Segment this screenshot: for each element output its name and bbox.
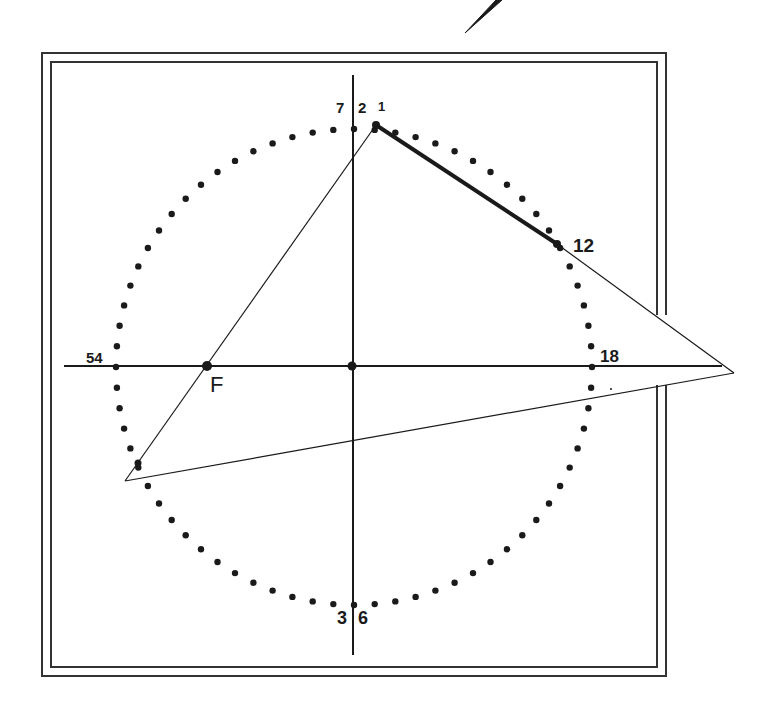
- axes: [64, 75, 722, 655]
- circle-dot-66: [232, 158, 238, 164]
- circle-dot-5: [451, 148, 457, 154]
- thin-segment-0: [125, 125, 376, 481]
- circle-dot-67: [250, 148, 256, 154]
- circle-dot-32: [432, 587, 438, 593]
- circle-dot-45: [183, 532, 189, 538]
- circle-dot-14: [574, 282, 580, 288]
- circle-dot-35: [372, 601, 378, 607]
- circle-dot-71: [330, 127, 336, 133]
- circle-dot-52: [116, 405, 122, 411]
- circle-dot-72: [351, 126, 357, 132]
- label-18: 18: [600, 348, 619, 365]
- circle-dot-53: [114, 385, 120, 391]
- circle-dot-70: [310, 129, 316, 135]
- circle-dot-37: [330, 601, 336, 607]
- circle-dot-59: [135, 263, 141, 269]
- circle-dot-13: [567, 263, 573, 269]
- key-points: [135, 121, 613, 467]
- center-point: [348, 362, 357, 371]
- circle-dot-20: [585, 405, 591, 411]
- circle-dot-18: [589, 364, 595, 370]
- label-focus-f: F: [210, 374, 223, 396]
- circle-dot-4: [432, 140, 438, 146]
- circle-dot-24: [557, 483, 563, 489]
- pencil-stroke-mark: [465, 0, 502, 33]
- label-72-b: 2: [358, 100, 366, 115]
- label-36-a: 3: [337, 609, 347, 627]
- circle-dot-29: [487, 559, 493, 565]
- label-1: 1: [378, 100, 385, 113]
- circle-dot-41: [250, 580, 256, 586]
- circle-dot-17: [588, 343, 594, 349]
- circle-dot-11: [546, 227, 552, 233]
- circle-dot-27: [519, 532, 525, 538]
- circle-dot-55: [114, 343, 120, 349]
- circle-dot-6: [470, 158, 476, 164]
- circle-dot-69: [289, 134, 295, 140]
- stray-dot: [610, 388, 612, 390]
- left-mark-point: [135, 460, 142, 467]
- point-12: [553, 240, 561, 248]
- circle-dot-3: [412, 134, 418, 140]
- focus-point: [202, 361, 212, 371]
- circle-dot-51: [121, 425, 127, 431]
- label-36-b: 6: [358, 609, 368, 627]
- circle-dot-47: [156, 500, 162, 506]
- circle-dot-44: [198, 546, 204, 552]
- circle-dot-26: [533, 517, 539, 523]
- circle-dot-57: [121, 302, 127, 308]
- label-72-a: 7: [336, 100, 344, 115]
- circle-dot-22: [574, 445, 580, 451]
- circle-dot-7: [487, 169, 493, 175]
- circle-dot-33: [412, 594, 418, 600]
- circle-dot-36: [351, 602, 357, 608]
- diagram-canvas: [0, 0, 771, 722]
- circle-dot-43: [214, 559, 220, 565]
- circle-dot-63: [183, 196, 189, 202]
- pencil-stroke: [465, 0, 502, 33]
- circle-dot-9: [519, 196, 525, 202]
- circle-dot-48: [145, 483, 151, 489]
- circle-dot-21: [581, 425, 587, 431]
- triangle-lines: [125, 125, 734, 481]
- circle-dot-61: [156, 227, 162, 233]
- circle-dot-39: [289, 594, 295, 600]
- circle-dot-15: [581, 302, 587, 308]
- circle-dot-31: [451, 580, 457, 586]
- circle-dot-42: [232, 570, 238, 576]
- circle-dot-54: [113, 364, 119, 370]
- circle-dot-38: [310, 598, 316, 604]
- circle-dot-23: [567, 464, 573, 470]
- circle-dot-34: [392, 598, 398, 604]
- circle-dot-46: [169, 517, 175, 523]
- circle-dot-16: [585, 323, 591, 329]
- label-54: 54: [86, 350, 103, 365]
- circle-dot-40: [269, 587, 275, 593]
- circle-dot-62: [169, 211, 175, 217]
- circle-dot-8: [504, 182, 510, 188]
- circle-dot-30: [470, 570, 476, 576]
- circle-dot-60: [145, 245, 151, 251]
- circle-dot-50: [127, 445, 133, 451]
- circle-dot-58: [127, 282, 133, 288]
- circle-dot-28: [504, 546, 510, 552]
- circle-dot-65: [214, 169, 220, 175]
- thick-segment: [376, 125, 557, 244]
- point-1: [372, 121, 380, 129]
- circle-dot-56: [116, 323, 122, 329]
- circle-dot-68: [269, 140, 275, 146]
- circle-dot-19: [588, 385, 594, 391]
- circle-dot-64: [198, 182, 204, 188]
- circle-dot-25: [546, 500, 552, 506]
- circle-dot-10: [533, 211, 539, 217]
- label-12: 12: [573, 236, 594, 255]
